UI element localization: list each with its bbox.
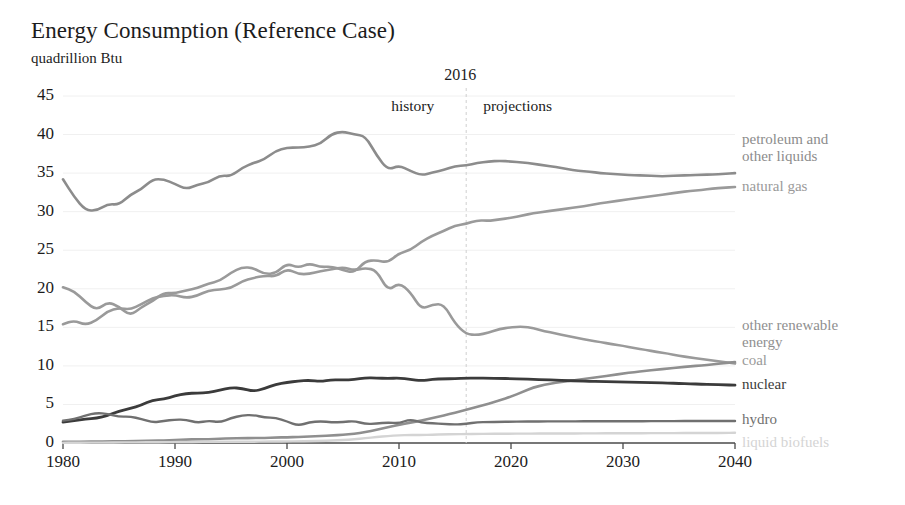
plot-area	[0, 0, 905, 505]
series-line-coal	[63, 268, 735, 364]
series-line-nuclear	[63, 378, 735, 422]
series-line-liquid-biofuels	[63, 433, 735, 443]
series-line-hydro	[63, 413, 735, 424]
series-line-other-renewable-energy	[63, 362, 735, 442]
chart-container: Energy Consumption (Reference Case) quad…	[0, 0, 905, 505]
